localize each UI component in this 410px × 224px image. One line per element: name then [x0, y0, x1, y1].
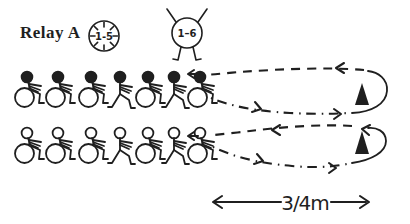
player-arms: [167, 9, 207, 22]
cone-tip-arrow: [362, 125, 370, 135]
wheelchair-figure: [15, 128, 44, 163]
runner-figure: [108, 128, 135, 164]
wheelchair-figure: [79, 72, 108, 107]
wheelchair-figure: [46, 128, 75, 163]
relay-diagram-page: Relay A 1-5 1–6: [0, 0, 410, 224]
clock-tick: [110, 42, 113, 45]
clock-tick: [110, 26, 113, 29]
out-arrow-1: [252, 102, 261, 112]
clock-label: 1-5: [95, 31, 113, 42]
wheelchair-figure: [79, 128, 108, 163]
turn-cone-top: [355, 83, 369, 105]
distance-label: 3/4m: [281, 191, 329, 215]
return-arrow: [272, 125, 280, 135]
out-arrow-1: [254, 154, 263, 164]
player-count-label: 1–6: [178, 28, 197, 39]
relay-course-bottom: [213, 125, 386, 173]
out-path: [211, 98, 348, 114]
turn-curve: [352, 128, 386, 163]
clock-tick: [94, 42, 97, 45]
wheelchair-figure: [15, 72, 44, 107]
out-arrow-2: [329, 163, 336, 173]
distance-measure: 3/4m: [213, 191, 369, 215]
page-title: Relay A: [20, 23, 81, 42]
player-legs: [173, 47, 201, 60]
wheelchair-figure: [136, 128, 165, 163]
wheelchair-figure: [46, 72, 75, 107]
team-row-2: [15, 128, 217, 164]
runner-figure: [162, 72, 189, 108]
relay-course-top: [211, 63, 387, 119]
clock-tick: [94, 26, 97, 29]
team-row-1: [15, 72, 217, 108]
turn-curve: [352, 71, 387, 113]
relay-diagram: Relay A 1-5 1–6: [0, 0, 410, 224]
out-path: [213, 147, 347, 167]
runner-figure: [108, 72, 135, 108]
return-path: [214, 125, 352, 135]
clock-icon: 1-5: [89, 21, 119, 51]
player-circle-icon: 1–6: [167, 9, 207, 60]
runner-figure: [162, 128, 189, 164]
wheelchair-figure: [136, 72, 165, 107]
